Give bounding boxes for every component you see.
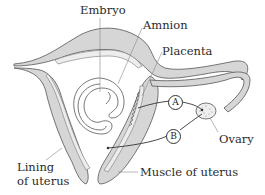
label-muscle: Muscle of uterus — [140, 166, 238, 179]
label-lining-line1: Lining — [17, 161, 54, 174]
uterus-diagram: A B Embryo Amnion Placenta Ovary Lining … — [0, 0, 265, 195]
arrow-b-end — [107, 147, 110, 150]
label-placenta: Placenta — [162, 45, 212, 58]
label-lining-line2: of uterus — [17, 175, 69, 188]
label-amnion: Amnion — [143, 19, 188, 32]
label-embryo: Embryo — [80, 4, 126, 17]
marker-a: A — [168, 95, 183, 110]
amnion-sac — [74, 78, 124, 134]
label-ovary: Ovary — [219, 133, 254, 146]
arrow-a-end — [201, 109, 204, 112]
marker-b: B — [166, 129, 181, 144]
